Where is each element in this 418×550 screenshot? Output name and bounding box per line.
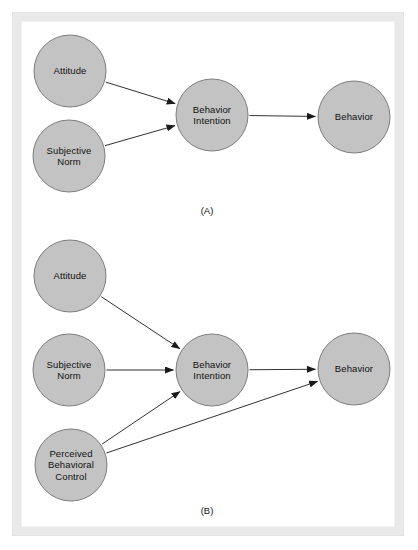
arrow-attitude-to-behavior-intention	[101, 297, 180, 349]
node-a-behavior[interactable]	[318, 81, 390, 153]
node-b-attitude[interactable]	[34, 240, 106, 312]
node-a-attitude[interactable]	[34, 35, 106, 107]
arrow-attitude-to-behavior-intention	[106, 82, 175, 104]
arrow-subjective-norm-to-behavior-intention	[105, 126, 175, 146]
node-b-perceived-behavioral-control[interactable]	[35, 429, 107, 501]
figure-root: AttitudeSubjective NormBehavior Intentio…	[0, 0, 418, 550]
arrow-perceived-behavioral-control-to-behavior-intention	[102, 392, 180, 445]
node-b-subjective-norm[interactable]	[33, 334, 105, 406]
arrow-behavior-intention-to-behavior	[249, 116, 315, 117]
diagram-canvas	[0, 0, 418, 550]
node-b-behavior[interactable]	[318, 333, 390, 405]
node-a-behavior-intention[interactable]	[176, 79, 248, 151]
nodes-layer	[33, 35, 390, 501]
node-a-subjective-norm[interactable]	[33, 120, 105, 192]
panel-a-caption: (A)	[177, 205, 237, 216]
panel-b-caption: (B)	[177, 505, 237, 516]
node-b-behavior-intention[interactable]	[176, 334, 248, 406]
